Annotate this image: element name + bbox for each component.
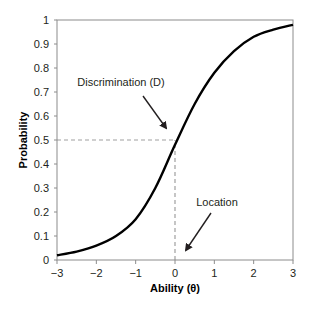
y-tick-label: 0.7 (34, 86, 49, 98)
y-tick-label: 0.6 (34, 110, 49, 122)
y-tick-label: 0.3 (34, 182, 49, 194)
x-tick-label: −3 (51, 267, 64, 279)
y-tick-label: 0 (43, 254, 49, 266)
y-tick-label: 0.8 (34, 62, 49, 74)
y-tick-label: 0.1 (34, 230, 49, 242)
y-axis-title: Probability (17, 111, 29, 169)
item-characteristic-chart: 00.10.20.30.40.50.60.70.80.91 −3−2−10123… (0, 0, 309, 311)
x-tick-label: 3 (290, 267, 296, 279)
x-axis-ticks: −3−2−10123 (51, 260, 296, 279)
annotation-arrow-icon (186, 213, 211, 250)
x-tick-label: 2 (251, 267, 257, 279)
annotations: Discrimination (D)Location (77, 76, 238, 250)
x-tick-label: −2 (90, 267, 103, 279)
x-axis-title: Ability (θ) (150, 282, 200, 294)
y-axis-ticks: 00.10.20.30.40.50.60.70.80.91 (34, 14, 57, 266)
x-tick-label: −1 (129, 267, 142, 279)
x-tick-label: 1 (211, 267, 217, 279)
y-tick-label: 0.9 (34, 38, 49, 50)
annotation-discrimination-d: Discrimination (D) (77, 76, 164, 88)
y-tick-label: 0.5 (34, 134, 49, 146)
reference-lines (57, 140, 175, 260)
x-tick-label: 0 (172, 267, 178, 279)
y-tick-label: 0.2 (34, 206, 49, 218)
y-tick-label: 1 (43, 14, 49, 26)
annotation-arrow-icon (143, 96, 166, 128)
y-tick-label: 0.4 (34, 158, 49, 170)
annotation-location: Location (196, 196, 238, 208)
